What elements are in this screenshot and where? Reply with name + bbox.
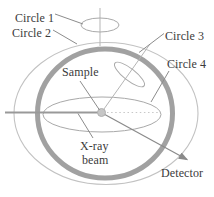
circle2-leader-line <box>53 30 77 44</box>
sample-label: Sample <box>62 65 99 79</box>
circle3-leader-line <box>139 34 164 53</box>
diffractometer-diagram: Circle 1 Circle 2 Circle 3 Circle 4 Samp… <box>0 0 214 197</box>
xray-beam-leader-line <box>78 114 93 139</box>
xray-beam-label-line2: beam <box>82 153 109 167</box>
circle3-label: Circle 3 <box>165 29 204 43</box>
detector-label: Detector <box>161 166 203 180</box>
circle4-label: Circle 4 <box>167 57 206 71</box>
circle2-label: Circle 2 <box>12 26 51 40</box>
circle1-leader-line <box>55 14 83 24</box>
circle3-ellipse <box>111 58 148 90</box>
xray-beam-label-line1: X-ray <box>80 139 108 153</box>
diagram-canvas: Circle 1 Circle 2 Circle 3 Circle 4 Samp… <box>0 0 214 197</box>
circle1-label: Circle 1 <box>15 11 54 25</box>
sample-leader-line <box>80 81 100 110</box>
